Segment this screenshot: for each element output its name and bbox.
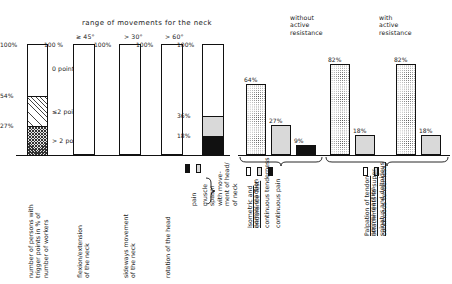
tick-100-bar5: 100% (177, 41, 200, 48)
category-trigger-points: number of persons with trigger points in… (27, 204, 49, 278)
value-palp-resist-normal-reaction: 82% (394, 56, 418, 63)
legend-label-iso-continuous-pain: continuous pain (274, 179, 281, 228)
tick-100-bar1: 100% (0, 41, 25, 48)
baseline-left (16, 155, 230, 156)
value-iso-continuous-tenderness: 27% (269, 117, 293, 124)
header-with-active-resistance: with active resistance (379, 14, 412, 36)
segment-gt-2-points (28, 126, 47, 156)
value-iso-continuous-pain: 9% (294, 137, 318, 144)
bar-palp-resist-continuous-tenderness (421, 135, 441, 155)
category-sideways-movement: sideways movement of the neck (122, 214, 137, 278)
value-palp-norsist-normal-reaction: 82% (328, 56, 352, 63)
legend-label-palp-normal-reaction: normal reaction (369, 187, 376, 236)
bar-iso-continuous-pain (296, 145, 316, 155)
value-iso-normal-reaction: 64% (244, 76, 268, 83)
bar-palp-norsist-continuous-tenderness (355, 135, 375, 155)
value-palp-resist-continuous-tenderness: 18% (419, 127, 443, 134)
category-rotation-head: rotation of the head (164, 216, 171, 278)
bar-spasm-pain (202, 44, 224, 155)
segment-0-point (28, 45, 47, 96)
bar-iso-continuous-tenderness (271, 125, 291, 155)
header-without-active-resistance: without active resistance (290, 14, 323, 36)
bar-trigger-points (27, 44, 48, 155)
legend-note-with-movement: with move- ment of head/ of neck (216, 162, 238, 206)
tick-100-bar2: 100 % (44, 41, 71, 48)
segment-muscle-spasm (203, 116, 223, 136)
angle-flexion-extension: ≥ 45° (76, 33, 95, 40)
bar-palp-norsist-normal-reaction (330, 64, 350, 155)
tick-36-bar5: 36% (177, 112, 200, 119)
legend-label-iso-continuous-tenderness: continuous tenderness (263, 158, 270, 229)
figure-root: range of movements for the neck without … (0, 0, 452, 284)
brace-palpation (324, 156, 450, 166)
tick-100-bar4: 100% (136, 41, 159, 48)
brace-movement-note (205, 176, 215, 206)
angle-rotation: > 60° (165, 33, 184, 40)
segment-pain (203, 136, 223, 156)
tick-27-bar1: 27% (0, 122, 25, 129)
segment-le-2-points (28, 96, 47, 126)
bar-palp-resist-normal-reaction (396, 64, 416, 155)
legend-label-palp-continuous-tenderness: continuous tenderness (380, 166, 387, 237)
tick-18-bar5: 18% (177, 132, 200, 139)
bar-iso-normal-reaction (246, 84, 266, 155)
value-palp-norsist-continuous-tenderness: 18% (353, 127, 377, 134)
swatch-pain (185, 164, 190, 173)
bar-sideways-movement (119, 44, 141, 155)
swatch-muscle-spasm (196, 164, 201, 173)
tick-54-bar1: 54% (0, 92, 25, 99)
legend-label-iso-normal-reaction: normal reaction (252, 179, 259, 228)
category-flexion-extension: flexion/extension of the neck (76, 225, 91, 278)
bar-flexion-extension (73, 44, 95, 155)
legend-label-pain: pain (190, 193, 197, 206)
swatch-iso-continuous-tenderness (257, 167, 262, 176)
angle-sideways: > 30° (124, 33, 143, 40)
tick-100-bar3: 100% (94, 41, 117, 48)
swatch-iso-normal-reaction (246, 167, 251, 176)
chart-title: range of movements for the neck (82, 19, 212, 27)
segment-no-symptom (203, 45, 223, 116)
brace-isometric (238, 156, 324, 166)
segment-label-0-point: 0 point (52, 65, 74, 72)
